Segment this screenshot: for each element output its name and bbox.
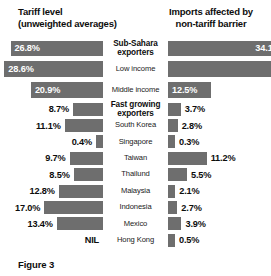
left-bar-cell: 12.8% bbox=[0, 183, 103, 199]
left-bar-value: 26.8% bbox=[11, 43, 40, 53]
left-heading-line-2: (unweighted averages) bbox=[18, 18, 158, 30]
left-bar-value: 8.7% bbox=[49, 104, 73, 114]
right-bar-value: 2.8% bbox=[178, 121, 202, 131]
left-bar-value: 17.0% bbox=[15, 203, 44, 213]
right-bar-value: 0.5% bbox=[175, 235, 199, 245]
right-bar-cell: 12.5% bbox=[168, 80, 271, 101]
left-bar bbox=[65, 119, 103, 132]
right-bar-value: 2.7% bbox=[177, 203, 201, 213]
left-bar-value: 13.4% bbox=[27, 219, 56, 229]
left-bar-cell: 11.1% bbox=[0, 117, 103, 133]
category-label: Hong Kong bbox=[103, 232, 168, 248]
category-label: Middle income bbox=[103, 80, 168, 101]
chart-row: NILHong Kong0.5% bbox=[0, 232, 271, 248]
left-bar bbox=[59, 185, 103, 198]
category-label: Sub-Saharaexporters bbox=[103, 38, 168, 59]
left-bar-cell: 0.4% bbox=[0, 134, 103, 150]
right-bar-value: 0.3% bbox=[175, 137, 199, 147]
right-panel-heading: Imports affected by non-tariff barrier bbox=[152, 6, 270, 29]
category-label: Indonesia bbox=[103, 199, 168, 215]
right-bar: 34.1% bbox=[168, 41, 271, 57]
left-bar-cell: 28.6% bbox=[0, 59, 103, 80]
left-bar-value: 0.4% bbox=[72, 137, 96, 147]
left-bar: 28.6% bbox=[4, 61, 103, 77]
left-bar-cell: 13.4% bbox=[0, 216, 103, 232]
right-bar-cell: 34.1% bbox=[168, 38, 271, 59]
chart-row: 0.4%Singapore0.3% bbox=[0, 134, 271, 150]
right-bar-value: 12.5% bbox=[168, 85, 197, 95]
right-bar-cell: 0.5% bbox=[168, 232, 271, 248]
right-bar bbox=[168, 135, 175, 148]
right-bar bbox=[168, 168, 187, 181]
right-bar-cell: 2.1% bbox=[168, 183, 271, 199]
right-bar-value: 5.5% bbox=[187, 170, 211, 180]
left-bar-value: 9.7% bbox=[45, 153, 69, 163]
category-label: South Korea bbox=[103, 117, 168, 133]
left-bar: 20.9% bbox=[31, 82, 103, 98]
chart-row: 8.5%Thailund5.5% bbox=[0, 167, 271, 183]
right-bar-cell: 11.2% bbox=[168, 150, 271, 166]
category-label: Malaysia bbox=[103, 183, 168, 199]
left-bar-cell: 17.0% bbox=[0, 199, 103, 215]
left-bar-value: 8.5% bbox=[49, 170, 73, 180]
right-bar-cell: 2.7% bbox=[168, 199, 271, 215]
category-label: Singapore bbox=[103, 134, 168, 150]
right-bar-value: 34.1% bbox=[255, 43, 271, 53]
left-bar-cell: 20.9% bbox=[0, 80, 103, 101]
right-heading-line-1: Imports affected by bbox=[152, 6, 270, 18]
chart-row: 17.0%Indonesia2.7% bbox=[0, 199, 271, 215]
left-bar-cell: 8.7% bbox=[0, 101, 103, 117]
chart-row: 9.7%Taiwan11.2% bbox=[0, 150, 271, 166]
right-bar-cell: 40.5% bbox=[168, 59, 271, 80]
left-bar bbox=[96, 135, 103, 148]
left-bar-value: 20.9% bbox=[31, 85, 60, 95]
left-heading-line-1: Tariff level bbox=[18, 6, 158, 18]
left-bar bbox=[70, 152, 103, 165]
figure-3-chart: Tariff level (unweighted averages) Impor… bbox=[0, 0, 271, 276]
right-bar-cell: 3.9% bbox=[168, 216, 271, 232]
category-label: Thailund bbox=[103, 167, 168, 183]
chart-group-economies: 8.7%Fast growingexporters3.7%11.1%South … bbox=[0, 101, 271, 249]
left-panel-heading: Tariff level (unweighted averages) bbox=[18, 6, 158, 29]
left-bar-value: NIL bbox=[85, 235, 103, 245]
right-bar bbox=[168, 152, 207, 165]
left-bar-cell: 8.5% bbox=[0, 167, 103, 183]
right-bar bbox=[168, 217, 181, 230]
right-bar: 40.5% bbox=[168, 61, 271, 77]
category-label: Mexico bbox=[103, 216, 168, 232]
right-heading-line-2: non-tariff barrier bbox=[152, 18, 270, 30]
left-bar bbox=[44, 201, 103, 214]
right-bar bbox=[168, 201, 177, 214]
right-bar bbox=[168, 234, 175, 247]
left-bar-cell: 26.8% bbox=[0, 38, 103, 59]
left-bar-value: 12.8% bbox=[30, 186, 59, 196]
chart-row: 11.1%South Korea2.8% bbox=[0, 117, 271, 133]
right-bar-value: 11.2% bbox=[207, 153, 236, 163]
right-bar: 12.5% bbox=[168, 82, 211, 98]
left-bar-value: 28.6% bbox=[4, 64, 33, 74]
left-bar-cell: 9.7% bbox=[0, 150, 103, 166]
left-bar-value: 11.1% bbox=[36, 121, 65, 131]
chart-row: 12.8%Malaysia2.1% bbox=[0, 183, 271, 199]
right-bar-value: 2.1% bbox=[175, 186, 199, 196]
category-label: Low income bbox=[103, 59, 168, 80]
right-bar-cell: 0.3% bbox=[168, 134, 271, 150]
chart-row: 13.4%Mexico3.9% bbox=[0, 216, 271, 232]
right-bar-value: 3.7% bbox=[181, 104, 205, 114]
left-bar bbox=[74, 168, 103, 181]
chart-row: 26.8%Sub-Saharaexporters34.1% bbox=[0, 38, 271, 59]
left-bar: 26.8% bbox=[11, 41, 103, 57]
left-bar bbox=[57, 217, 103, 230]
figure-caption: Figure 3 bbox=[18, 259, 54, 270]
category-label: Fast growingexporters bbox=[103, 101, 168, 117]
right-bar bbox=[168, 103, 181, 116]
chart-row: 28.6%Low income40.5% bbox=[0, 59, 271, 80]
right-bar-cell: 3.7% bbox=[168, 101, 271, 117]
right-bar bbox=[168, 119, 178, 132]
left-bar bbox=[73, 103, 103, 116]
chart-group-aggregates: 26.8%Sub-Saharaexporters34.1%28.6%Low in… bbox=[0, 38, 271, 100]
chart-row: 20.9%Middle income12.5% bbox=[0, 80, 271, 101]
chart-row: 8.7%Fast growingexporters3.7% bbox=[0, 101, 271, 117]
right-bar-cell: 2.8% bbox=[168, 117, 271, 133]
right-bar-cell: 5.5% bbox=[168, 167, 271, 183]
